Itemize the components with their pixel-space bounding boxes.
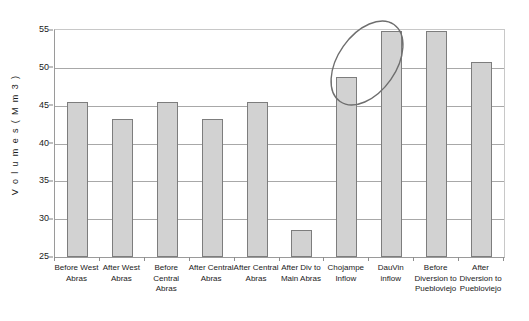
x-axis-tick-mark	[144, 257, 145, 261]
x-axis-label: BeforeCentralAbras	[144, 263, 189, 295]
x-axis-label-line: DauVin	[368, 263, 413, 274]
y-axis-title-text: V o l u m e s ( M m 3 )	[10, 75, 20, 196]
x-axis-label-line: After West	[99, 263, 144, 274]
x-axis-label: After WestAbras	[99, 263, 144, 284]
y-axis-tick-label: 30	[39, 214, 49, 223]
x-axis-label-line: After	[458, 263, 503, 274]
x-axis-tick-mark	[234, 257, 235, 261]
x-axis-label-line: inflow	[368, 274, 413, 285]
x-axis-label-line: After Central	[234, 263, 279, 274]
x-axis-tick-mark	[323, 257, 324, 261]
x-axis-label: DauVininflow	[368, 263, 413, 284]
x-axis-label: After CentralAbras	[234, 263, 279, 284]
x-axis-label-line: Abras	[99, 274, 144, 285]
x-axis-label: After Div toMain Abras	[279, 263, 324, 284]
x-axis-tick-mark	[503, 257, 504, 261]
y-axis-tick-labels: 55504540353025	[28, 0, 52, 270]
y-axis-tick-mark	[49, 143, 53, 144]
bar	[112, 119, 133, 257]
x-axis-label: ChojampeInflow	[323, 263, 368, 284]
x-axis-label: Before WestAbras	[54, 263, 99, 284]
bar	[291, 230, 312, 257]
x-axis-label-line: Before West	[54, 263, 99, 274]
bar	[247, 102, 268, 257]
y-axis-tick-mark	[49, 180, 53, 181]
x-axis-label: AfterDiversion toPuebloviejo	[458, 263, 503, 295]
x-axis-label-line: Before	[413, 263, 458, 274]
y-axis-tick-mark	[49, 67, 53, 68]
x-axis-label-line: Abras	[144, 284, 189, 295]
x-axis-tick-mark	[279, 257, 280, 261]
y-axis-tick-mark	[49, 105, 53, 106]
bars	[55, 30, 504, 257]
x-axis-label-line: Puebloviejo	[413, 284, 458, 295]
x-axis-label-line: Abras	[234, 274, 279, 285]
x-axis-label-line: Diversion to	[413, 274, 458, 285]
x-axis-tick-mark	[54, 257, 55, 261]
x-axis-label-line: Before	[144, 263, 189, 274]
bar	[67, 102, 88, 257]
x-axis-label-line: Inflow	[323, 274, 368, 285]
y-axis-tick-mark	[49, 218, 53, 219]
plot-area	[54, 29, 505, 258]
y-axis-tick-label: 40	[39, 138, 49, 147]
x-axis-label-line: After Central	[189, 263, 234, 274]
x-axis-label: After CentralAbras	[189, 263, 234, 284]
x-axis-label-line: Diversion to	[458, 274, 503, 285]
x-axis-label-line: After Div to	[279, 263, 324, 274]
y-axis-tick-label: 55	[39, 25, 49, 34]
bar	[202, 119, 223, 257]
x-axis-labels: Before WestAbrasAfter WestAbrasBeforeCen…	[54, 263, 504, 321]
x-axis-label-line: Abras	[54, 274, 99, 285]
y-axis-tick-label: 25	[39, 252, 49, 261]
x-axis-tick-mark	[458, 257, 459, 261]
bar	[336, 77, 357, 257]
x-axis-tick-mark	[413, 257, 414, 261]
x-axis-tick-mark	[99, 257, 100, 261]
bar-chart: V o l u m e s ( M m 3 ) 55504540353025 B…	[0, 0, 529, 321]
x-axis-label-line: Abras	[189, 274, 234, 285]
y-axis-tick-label: 45	[39, 100, 49, 109]
x-axis-tick-mark	[368, 257, 369, 261]
bar	[157, 102, 178, 257]
y-axis-tick-mark	[49, 256, 53, 257]
x-axis-label-line: Puebloviejo	[458, 284, 503, 295]
x-axis-label-line: Chojampe	[323, 263, 368, 274]
x-axis-label-line: Central	[144, 274, 189, 285]
x-axis-label: BeforeDiversion toPuebloviejo	[413, 263, 458, 295]
y-axis-tick-label: 35	[39, 176, 49, 185]
y-axis-title: V o l u m e s ( M m 3 )	[0, 0, 30, 270]
y-axis-tick-label: 50	[39, 62, 49, 71]
y-axis-tick-mark	[49, 29, 53, 30]
bar	[471, 62, 492, 257]
x-axis-label-line: Main Abras	[279, 274, 324, 285]
x-axis-tick-mark	[189, 257, 190, 261]
x-axis-tick-marks	[54, 257, 504, 262]
bar	[381, 31, 402, 257]
bar	[426, 31, 447, 257]
